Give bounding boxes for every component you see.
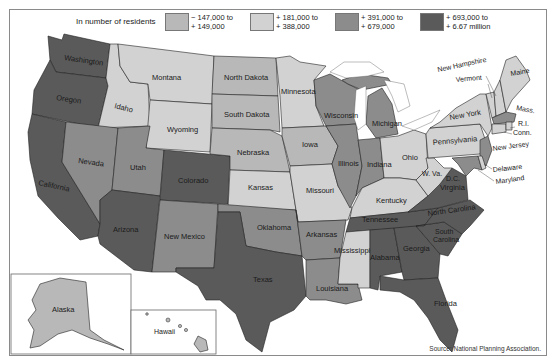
leader-line [478,170,494,181]
hawaii-islands [178,324,181,327]
label-louisiana: Louisiana [316,284,349,293]
label-south-carolina-1: South [435,228,453,235]
great-lakes-superior [330,62,384,78]
label-kentucky: Kentucky [376,196,407,205]
label-nebraska: Nebraska [237,148,270,157]
label-wisconsin: Wisconsin [324,111,358,120]
label-colorado: Colorado [178,176,208,185]
label-mississippi: Mississippi [334,246,371,255]
label-ohio: Ohio [402,153,418,162]
state-connecticut [492,124,506,134]
label-delaware: Delaware [492,163,522,173]
label-ri: R.I. [518,120,529,127]
label-north-dakota: North Dakota [224,73,269,82]
label-new-jersey: New Jersey [492,140,530,153]
us-map: Washington Oregon California Idaho Nevad… [0,0,555,364]
label-new-hampshire: New Hampshire [437,56,487,74]
label-south-carolina-2: Carolina [433,236,459,243]
label-montana: Montana [152,73,182,82]
label-alaska: Alaska [52,305,75,314]
label-tennessee: Tennessee [362,215,398,224]
label-alabama: Alabama [370,253,400,262]
label-texas: Texas [253,275,273,284]
label-minnesota: Minnesota [281,87,316,96]
label-south-dakota: South Dakota [224,110,270,119]
label-utah: Utah [130,163,146,172]
label-arizona: Arizona [113,225,139,234]
label-illinois: Illinois [338,159,359,168]
hawaii-islands [146,313,149,316]
leader-line [504,132,512,134]
label-michigan: Michigan [372,119,402,128]
label-kansas: Kansas [248,183,273,192]
label-florida: Florida [434,299,458,308]
label-mass: Mass. [516,104,536,114]
label-vermont: Vermont [455,74,482,83]
label-conn: Conn. [513,129,532,136]
state-maine [500,56,530,112]
label-missouri: Missouri [306,186,334,195]
label-arkansas: Arkansas [306,230,338,239]
label-oklahoma: Oklahoma [257,223,292,232]
label-wyoming: Wyoming [167,125,198,134]
label-maryland: Maryland [495,174,525,186]
label-hawaii: Hawaii [154,328,175,335]
label-indiana: Indiana [367,160,392,169]
label-iowa: Iowa [302,140,319,149]
label-new-mexico: New Mexico [164,232,205,241]
label-west-virginia: W. Va. [422,170,442,177]
label-dc: D.C. [446,175,460,182]
hawaii-islands [166,318,170,322]
hawaii-islands [184,328,187,331]
great-lakes [354,86,366,130]
label-virginia: Virginia [440,183,466,192]
source-note: Source: National Planning Association. [429,345,541,352]
state-florida [380,276,458,352]
label-georgia: Georgia [403,244,431,253]
state-rhode-island [506,122,512,130]
